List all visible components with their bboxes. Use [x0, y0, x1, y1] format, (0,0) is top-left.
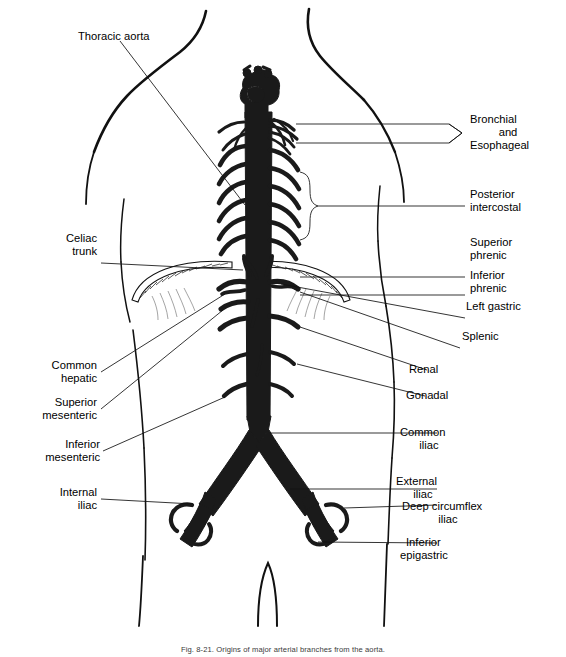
label-splenic: Splenic — [462, 330, 499, 343]
label-external-iliac-line1: External — [396, 475, 437, 488]
label-bronchial-esophageal-line3: Esophageal — [470, 139, 529, 152]
label-inferior-epigastric-line1: Inferior — [406, 536, 441, 549]
label-superior-mesenteric-line1: Superior — [0, 396, 97, 409]
label-common-hepatic-line1: Common — [0, 359, 97, 372]
label-superior-mesenteric-line2: mesenteric — [0, 409, 97, 422]
label-left-gastric: Left gastric — [466, 300, 521, 313]
label-common-iliac-line2: iliac — [400, 439, 458, 452]
label-inferior-phrenic-line2: phrenic — [470, 282, 507, 295]
figure-caption: Fig. 8-21. Origins of major arterial bra… — [0, 645, 566, 654]
label-inferior-phrenic-line1: Inferior — [470, 269, 505, 282]
label-posterior-intercostal-line2: intercostal — [470, 201, 521, 214]
label-celiac-trunk-line1: Celiac — [0, 232, 97, 245]
label-bronchial-esophageal-line2: and — [470, 126, 546, 139]
figure-canvas: Thoracic aorta Celiac trunk Common hepat… — [0, 0, 566, 657]
label-common-hepatic-line2: hepatic — [0, 372, 97, 385]
label-deep-circumflex-iliac-line1: Deep circumflex — [402, 500, 482, 513]
label-common-iliac-line1: Common — [400, 426, 445, 439]
label-superior-phrenic-line2: phrenic — [470, 249, 507, 262]
label-deep-circumflex-iliac-line2: iliac — [402, 513, 494, 526]
label-thoracic-aorta: Thoracic aorta — [78, 30, 150, 43]
label-inferior-epigastric-line2: epigastric — [400, 549, 448, 562]
label-internal-iliac-line1: Internal — [0, 486, 97, 499]
label-posterior-intercostal-line1: Posterior — [470, 188, 515, 201]
label-internal-iliac-line2: iliac — [0, 499, 97, 512]
anatomy-illustration — [0, 0, 566, 657]
label-superior-phrenic-line1: Superior — [470, 236, 512, 249]
label-bronchial-esophageal-line1: Bronchial — [470, 113, 517, 126]
label-renal: Renal — [409, 363, 438, 376]
label-gonadal: Gonadal — [406, 389, 448, 402]
label-celiac-trunk-line2: trunk — [0, 245, 97, 258]
figure-background — [0, 0, 566, 657]
label-inferior-mesenteric-line2: mesenteric — [0, 451, 100, 464]
label-inferior-mesenteric-line1: Inferior — [0, 438, 100, 451]
label-external-iliac-line2: iliac — [396, 488, 450, 501]
